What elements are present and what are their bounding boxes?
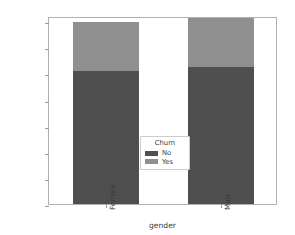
bar-male <box>188 16 254 204</box>
legend-item: No <box>145 150 185 157</box>
legend-item: Yes <box>145 159 185 166</box>
chart-legend: Churn No Yes <box>140 136 190 170</box>
figure: 0500100015002000250030003500 FemaleMale … <box>0 0 295 235</box>
x-tick-mark <box>221 204 222 208</box>
x-axis-title: gender <box>48 222 277 230</box>
legend-label-yes: Yes <box>162 159 173 166</box>
y-tick-mark <box>45 206 49 207</box>
legend-swatch-yes <box>145 159 158 164</box>
y-tick-mark <box>45 102 49 103</box>
plot-axes: 0500100015002000250030003500 FemaleMale <box>48 17 277 205</box>
bar-segment-no <box>188 67 254 204</box>
x-tick-label: Female <box>109 184 116 210</box>
y-tick-mark <box>45 128 49 129</box>
legend-title: Churn <box>145 140 185 147</box>
y-tick-mark <box>45 154 49 155</box>
legend-swatch-no <box>145 151 158 156</box>
y-tick-mark <box>45 180 49 181</box>
bar-female <box>73 16 139 204</box>
x-tick-label: Male <box>224 193 231 210</box>
bar-segment-no <box>73 71 139 204</box>
y-tick-mark <box>45 49 49 50</box>
bar-segment-yes <box>73 22 139 71</box>
legend-label-no: No <box>162 150 171 157</box>
bar-segment-yes <box>188 18 254 67</box>
y-tick-mark <box>45 75 49 76</box>
plot-area <box>49 18 276 204</box>
y-tick-mark <box>45 23 49 24</box>
